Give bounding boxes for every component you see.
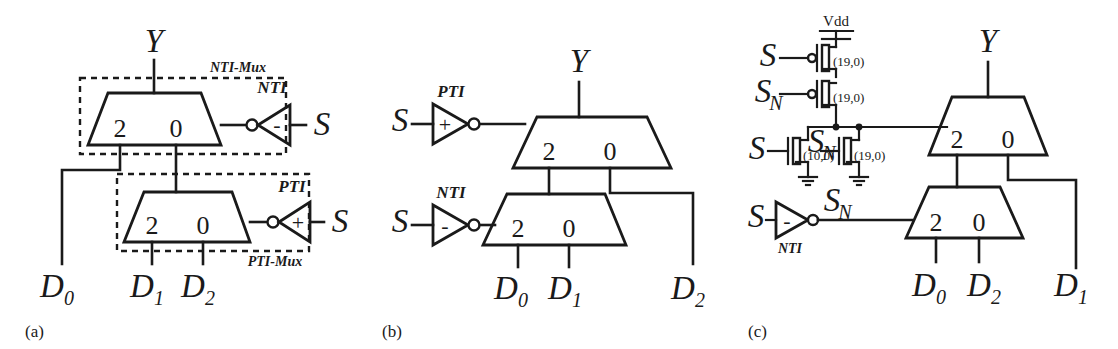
pmos-top-size-label: (19,0) (833, 54, 864, 69)
pti-label: PTI (436, 82, 466, 101)
data-input-D2-base: D (670, 270, 695, 306)
data-input-D0-sub: 0 (518, 289, 528, 311)
panel-b-svg: Y 2 0 S + PTI 2 0 S - NTI (373, 0, 746, 349)
nti-select-input-label: S (748, 198, 765, 234)
nti-triangle (776, 202, 808, 238)
data-input-D2-base: D (180, 268, 205, 304)
node-label-SN: S N (824, 182, 854, 223)
panel-c-caption: (c) (748, 322, 767, 341)
data-input-D0-base: D (39, 268, 64, 304)
panel-a-caption: (a) (25, 322, 44, 341)
panel-b: Y 2 0 S + PTI 2 0 S - NTI (373, 0, 746, 349)
data-input-D1-sub: 1 (1078, 286, 1088, 308)
nti-select-input-label: S (314, 106, 331, 142)
panel-b-caption: (b) (382, 322, 402, 341)
pti-sign: + (439, 112, 451, 137)
nti-label: NTI (777, 241, 803, 256)
wire-top-mux-port2-to-D0 (62, 145, 120, 264)
pmos-top-gate-bubble (808, 54, 816, 62)
bottom-mux-port-0: 0 (973, 208, 986, 237)
wire-top-mux-port0-to-D2 (610, 168, 693, 264)
bottom-mux-port-0: 0 (197, 211, 210, 240)
bottom-mux-body (906, 187, 1023, 238)
bottom-mux-port-0: 0 (563, 214, 576, 243)
nti-sign: - (783, 208, 790, 233)
top-mux-body (88, 93, 221, 145)
pti-sign: + (292, 210, 304, 235)
nmos-right-channel (844, 138, 851, 164)
data-input-D2-sub: 2 (991, 286, 1001, 308)
bottom-mux-body (483, 194, 626, 245)
output-label-Y: Y (979, 23, 1001, 59)
nti-output-bubble (808, 215, 818, 225)
panel-c-svg: Vdd S (19,0) S N (746, 0, 1118, 349)
nti-triangle (433, 205, 468, 245)
pti-label: PTI (277, 177, 307, 196)
data-input-D0-sub: 0 (936, 286, 946, 308)
pmos-bottom-channel (822, 81, 829, 107)
bottom-mux-port-2: 2 (930, 208, 943, 237)
data-input-D1-base: D (129, 268, 154, 304)
data-input-D1-sub: 1 (154, 287, 164, 309)
panel-a-svg: - NTI S NTI-Mux 2 0 + PTI S (0, 0, 373, 349)
nti-label: NTI (435, 183, 467, 202)
panel-a: - NTI S NTI-Mux 2 0 + PTI S (0, 0, 373, 349)
figure-circuit-diagrams: - NTI S NTI-Mux 2 0 + PTI S (0, 0, 1118, 349)
pmos-bottom-gate-label-sub: N (768, 92, 784, 114)
supply-label-vdd: Vdd (823, 13, 849, 29)
nmos-right-gate-label-sub: N (821, 142, 837, 164)
output-label-Y: Y (145, 23, 167, 59)
pti-select-input-label: S (332, 203, 349, 239)
data-input-D1-base: D (1053, 267, 1078, 303)
output-label-Y: Y (570, 43, 592, 79)
data-input-D2-sub: 2 (205, 287, 215, 309)
top-mux-port-0: 0 (1002, 125, 1015, 154)
pmos-bottom-size-label: (19,0) (833, 90, 864, 105)
top-mux-body (513, 117, 671, 168)
data-input-D0: D 0 (39, 268, 74, 309)
data-input-D0-base: D (911, 267, 936, 303)
bottom-mux-body (124, 192, 250, 242)
data-input-D1: D 1 (1053, 267, 1088, 308)
nti-mux-box-label: NTI-Mux (209, 60, 266, 75)
data-input-D2: D 2 (180, 268, 215, 309)
nti-output-bubble (469, 220, 480, 231)
pmos-bottom-gate-label: S N (755, 73, 785, 114)
top-mux-port-0: 0 (604, 137, 617, 166)
data-input-D2-base: D (966, 267, 991, 303)
nmos-left-gate-label: S (749, 130, 766, 166)
pmos-top-gate-label: S (760, 37, 777, 73)
data-input-D0: D 0 (493, 270, 528, 311)
data-input-D2: D 2 (966, 267, 1001, 308)
nti-select-input-label: S (392, 203, 409, 239)
pti-select-input-label: S (392, 102, 409, 138)
pmos-bottom-gate-bubble (808, 90, 816, 98)
pti-output-bubble (469, 119, 480, 130)
bottom-mux-port-2: 2 (512, 214, 525, 243)
top-mux-port-2: 2 (114, 114, 127, 143)
wire-top-mux-port0-to-D1 (1008, 155, 1076, 268)
data-input-D2-sub: 2 (695, 289, 705, 311)
data-input-D1: D 1 (547, 270, 582, 311)
dashed-box-nti-mux (80, 78, 286, 154)
top-mux-port-0: 0 (170, 114, 183, 143)
panel-c: Vdd S (19,0) S N (746, 0, 1118, 349)
top-mux-port-2: 2 (543, 137, 556, 166)
data-input-D0-base: D (493, 270, 518, 306)
data-input-D1-sub: 1 (572, 289, 582, 311)
data-input-D1: D 1 (129, 268, 164, 309)
top-mux-port-2: 2 (951, 125, 964, 154)
nti-sign: - (273, 112, 280, 137)
node-label-SN-sub: N (837, 201, 853, 223)
data-input-D0-sub: 0 (64, 287, 74, 309)
data-input-D2: D 2 (670, 270, 705, 311)
data-input-D1-base: D (547, 270, 572, 306)
nmos-left-channel (793, 138, 800, 164)
data-input-D0: D 0 (911, 267, 946, 308)
nti-label: NTI (256, 78, 288, 97)
nmos-right-gate-label: S N (808, 123, 838, 164)
pti-mux-box-label: PTI-Mux (248, 254, 302, 269)
nmos-right-size-label: (19,0) (854, 148, 885, 163)
bottom-mux-port-2: 2 (146, 211, 159, 240)
nti-sign: - (441, 213, 448, 238)
